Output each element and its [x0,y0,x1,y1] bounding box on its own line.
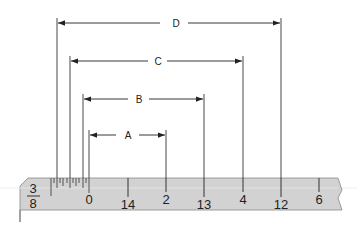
fraction-denominator: 8 [29,196,36,211]
scale-measurement-diagram: 3 8 0 14 2 13 4 12 6 D C B [0,0,357,228]
scale-label-6: 6 [315,192,322,207]
scale-label-2: 2 [162,192,169,207]
dimension-label-b: B [136,94,143,105]
dimension-label-d: D [172,18,179,29]
scale-label-13: 13 [197,197,211,212]
dimension-label-a: A [125,130,132,141]
scale-label-4: 4 [239,192,246,207]
extension-lines [57,18,281,178]
fraction-numerator: 3 [29,181,36,196]
scale-label-0: 0 [85,192,92,207]
dimension-label-c: C [154,56,161,67]
ruler: 3 8 0 14 2 13 4 12 6 [0,178,357,222]
scale-label-14: 14 [121,197,135,212]
scale-label-12: 12 [274,197,288,212]
